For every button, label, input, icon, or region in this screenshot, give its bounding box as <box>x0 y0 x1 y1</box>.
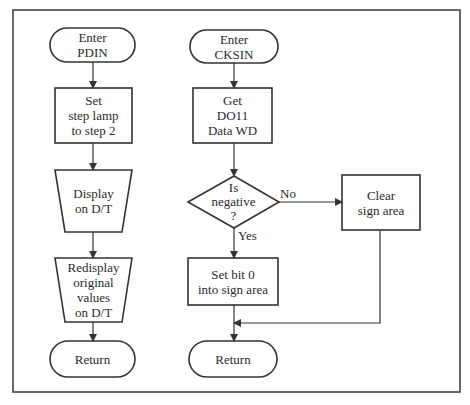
text-line: CKSIN <box>214 47 253 62</box>
text-line: Data WD <box>208 123 257 138</box>
text-line: Set bit 0 <box>211 267 254 282</box>
text-line: original <box>73 275 113 290</box>
label-set-bit0: Set bit 0 into sign area <box>188 258 278 305</box>
text-line: Enter <box>220 32 248 47</box>
text-line: PDIN <box>77 45 107 60</box>
text-line: negative <box>211 195 255 209</box>
text-line: Is <box>229 181 238 195</box>
text-line: Return <box>215 352 250 367</box>
text-line: Display <box>73 186 113 201</box>
text-line: sign area <box>358 203 405 218</box>
text-line: on D/T <box>75 305 112 320</box>
text-line: into sign area <box>198 282 268 297</box>
edge-label-yes: Yes <box>238 228 257 244</box>
label-redisplay: Redisplay original values on D/T <box>55 258 132 322</box>
label-clear-sign: Clear sign area <box>342 175 420 230</box>
text-line: ? <box>231 209 237 223</box>
label-display: Display on D/T <box>55 170 132 232</box>
label-get-do11: Get DO11 Data WD <box>193 88 272 143</box>
text-line: Enter <box>78 30 106 45</box>
text-line: values <box>77 290 110 305</box>
label-enter-cksin: Enter CKSIN <box>190 30 278 63</box>
text-line: Get <box>223 93 242 108</box>
text-line: Redisplay <box>68 260 120 275</box>
text-line: on D/T <box>75 201 112 216</box>
label-return-right: Return <box>189 341 277 377</box>
label-is-negative: Is negative ? <box>188 178 279 226</box>
edge-label-no: No <box>280 186 296 202</box>
label-return-left: Return <box>50 341 135 377</box>
text-line: Clear <box>367 188 395 203</box>
text-line: step lamp <box>68 108 118 123</box>
text-line: Set <box>85 93 102 108</box>
label-set-step-lamp: Set step lamp to step 2 <box>55 88 132 143</box>
text-line: to step 2 <box>71 123 115 138</box>
text-line: Return <box>75 352 110 367</box>
text-line: DO11 <box>217 108 248 123</box>
label-enter-pdin: Enter PDIN <box>50 28 135 62</box>
